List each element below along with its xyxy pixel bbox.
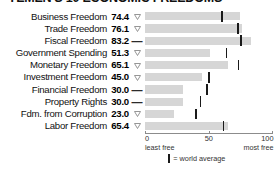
chart-title: YEMEN'S 10 ECONOMIC FREEDOMS xyxy=(0,0,280,6)
score-bar xyxy=(145,73,202,81)
down-triangle-icon xyxy=(131,120,143,129)
freedom-label: Business Freedom xyxy=(0,11,107,23)
score-bar xyxy=(145,49,210,57)
axis-endpoint-label: most free xyxy=(244,144,274,152)
dash-icon: — xyxy=(131,84,143,96)
score-bar xyxy=(145,37,251,45)
score-bar xyxy=(145,122,228,130)
freedom-row: Government Spending51.3 xyxy=(0,48,280,60)
legend: = world average xyxy=(168,153,225,163)
freedom-row: Fiscal Freedom83.2— xyxy=(0,35,280,47)
freedom-plot xyxy=(145,35,272,45)
world-average-mark xyxy=(208,72,210,83)
freedom-plot xyxy=(145,72,272,82)
freedom-score: 30.0 xyxy=(107,84,129,96)
world-average-mark xyxy=(195,109,197,120)
axis-tick-label: 50 xyxy=(205,135,213,143)
score-bar xyxy=(145,98,183,106)
freedom-row: Monetary Freedom65.1 xyxy=(0,60,280,72)
axis-tick-label: 100 xyxy=(261,135,273,143)
freedom-plot xyxy=(145,109,272,119)
freedom-score: 83.2 xyxy=(107,35,129,47)
score-bar xyxy=(145,110,174,118)
freedom-score: 30.0 xyxy=(107,96,129,108)
vertical-bar-icon xyxy=(168,154,170,163)
dash-icon: — xyxy=(131,96,143,108)
freedom-row: Trade Freedom76.1 xyxy=(0,23,280,35)
score-bar xyxy=(145,61,228,69)
freedom-plot xyxy=(145,60,272,70)
down-triangle-icon xyxy=(131,23,143,32)
freedom-label: Fdm. from Corruption xyxy=(0,108,107,120)
axis-endpoint-label: least free xyxy=(145,144,175,152)
freedom-row: Investment Freedom45.0 xyxy=(0,72,280,84)
freedom-plot xyxy=(145,23,272,33)
freedom-plot xyxy=(145,48,272,58)
score-bar xyxy=(145,24,242,32)
score-bar xyxy=(145,85,183,93)
freedom-score: 74.4 xyxy=(107,11,129,23)
world-average-mark xyxy=(238,60,240,71)
freedom-score: 23.0 xyxy=(107,108,129,120)
down-triangle-icon xyxy=(131,59,143,68)
freedom-plot xyxy=(145,84,272,94)
freedom-label: Fiscal Freedom xyxy=(0,35,107,47)
freedom-plot xyxy=(145,96,272,106)
freedom-score: 51.3 xyxy=(107,47,129,59)
economic-freedoms-chart: YEMEN'S 10 ECONOMIC FREEDOMS Business Fr… xyxy=(0,0,280,173)
freedom-label: Financial Freedom xyxy=(0,84,107,96)
score-bar xyxy=(145,12,240,20)
freedom-label: Property Rights xyxy=(0,96,107,108)
world-average-mark xyxy=(206,84,208,95)
freedom-label: Monetary Freedom xyxy=(0,59,107,71)
freedom-row: Financial Freedom30.0— xyxy=(0,84,280,96)
down-triangle-icon xyxy=(131,71,143,80)
axis-tick-label: 0 xyxy=(145,135,149,143)
freedom-label: Trade Freedom xyxy=(0,23,107,35)
freedom-score: 65.4 xyxy=(107,120,129,132)
world-average-mark xyxy=(237,23,239,34)
down-triangle-icon xyxy=(131,11,143,20)
down-triangle-icon xyxy=(131,47,143,56)
freedom-label: Government Spending xyxy=(0,47,107,59)
dash-icon: — xyxy=(131,35,143,47)
freedom-row: Labor Freedom65.4 xyxy=(0,121,280,133)
world-average-mark xyxy=(200,96,202,107)
world-average-mark xyxy=(221,11,223,22)
legend-label: = world average xyxy=(173,154,225,163)
freedom-score: 65.1 xyxy=(107,59,129,71)
freedom-label: Investment Freedom xyxy=(0,71,107,83)
freedom-score: 45.0 xyxy=(107,71,129,83)
freedom-row: Property Rights30.0— xyxy=(0,96,280,108)
freedom-rows: Business Freedom74.4Trade Freedom76.1Fis… xyxy=(0,11,280,133)
freedom-plot xyxy=(145,11,272,21)
world-average-mark xyxy=(223,121,225,132)
world-average-mark xyxy=(240,35,242,46)
freedom-score: 76.1 xyxy=(107,23,129,35)
freedom-row: Fdm. from Corruption23.0 xyxy=(0,109,280,121)
freedom-plot xyxy=(145,121,272,131)
world-average-mark xyxy=(226,48,228,59)
freedom-label: Labor Freedom xyxy=(0,120,107,132)
down-triangle-icon xyxy=(131,108,143,117)
freedom-row: Business Freedom74.4 xyxy=(0,11,280,23)
